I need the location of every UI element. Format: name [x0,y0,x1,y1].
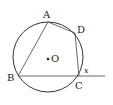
label-a: A [42,9,51,20]
segment-ab [18,22,48,76]
circle [13,22,83,92]
label-d: D [77,24,85,35]
label-c: C [75,80,83,91]
segment-ad [48,22,75,33]
center-dot [47,58,50,61]
angle-x-label: x [84,66,89,75]
geometry-diagram: A D B C O x [0,0,113,105]
label-b: B [7,72,14,83]
label-o: O [51,53,59,64]
